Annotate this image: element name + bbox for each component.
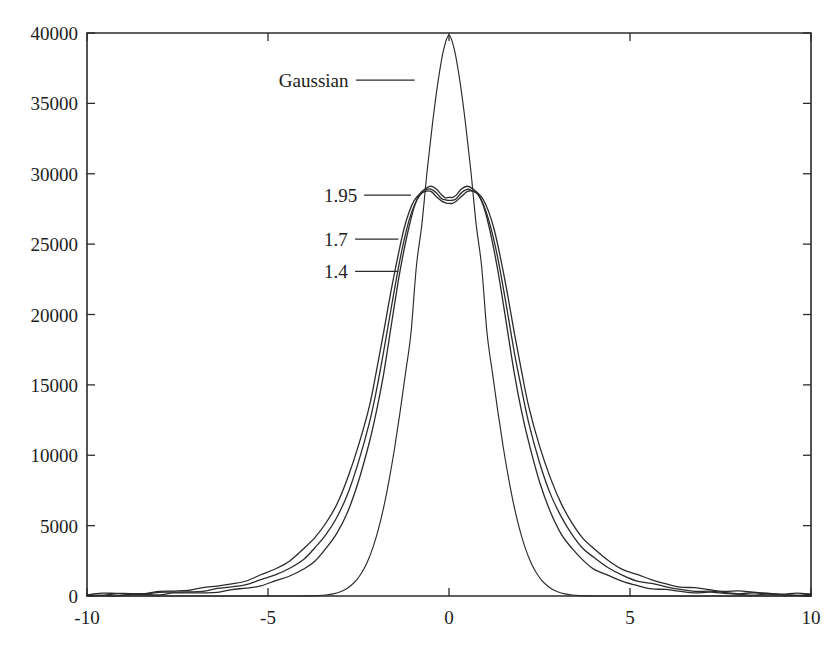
axis-ticks xyxy=(87,33,811,596)
y-tick-label: 40000 xyxy=(31,24,79,43)
y-tick-label: 35000 xyxy=(31,94,79,113)
x-tick-label: -5 xyxy=(260,608,276,627)
data-series-group xyxy=(87,35,811,596)
y-tick-label: 20000 xyxy=(31,305,79,324)
y-tick-label: 0 xyxy=(69,587,79,606)
series-label-1-95: 1.95 xyxy=(324,186,357,205)
y-tick-label: 10000 xyxy=(31,446,79,465)
plot-canvas xyxy=(0,0,840,650)
y-tick-label: 25000 xyxy=(31,235,79,254)
x-tick-label: 10 xyxy=(802,608,821,627)
chart-figure: 0500010000150002000025000300003500040000… xyxy=(0,0,840,650)
y-tick-label: 5000 xyxy=(40,516,78,535)
axis-frame xyxy=(87,33,811,596)
x-tick-label: -10 xyxy=(74,608,99,627)
x-tick-label: 5 xyxy=(625,608,635,627)
y-tick-label: 30000 xyxy=(31,164,79,183)
series-label-1-4: 1.4 xyxy=(324,262,348,281)
y-tick-label: 15000 xyxy=(31,375,79,394)
series-label-1-7: 1.7 xyxy=(324,230,348,249)
series-label-gaussian: Gaussian xyxy=(279,71,349,90)
x-tick-label: 0 xyxy=(444,608,454,627)
